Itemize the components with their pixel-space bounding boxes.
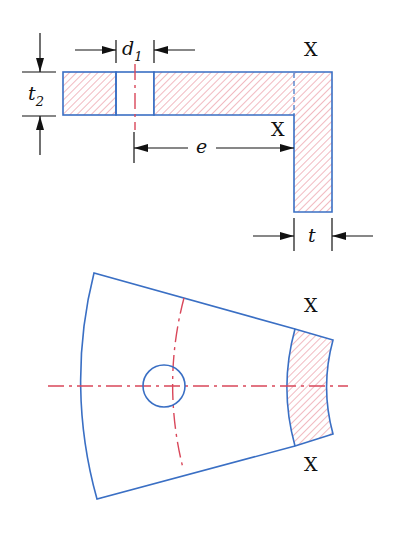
section-label-x-top: X (304, 38, 318, 60)
d1-label: d1 (122, 37, 142, 64)
e-label: e (196, 135, 207, 157)
section-xx-hatched (287, 329, 333, 446)
sector-label-x-bottom: X (304, 453, 318, 475)
dimension-e: e (134, 132, 294, 163)
angle-section (154, 72, 332, 212)
dimension-t: t (253, 218, 373, 251)
section-label-x-inner: X (271, 118, 285, 140)
dimension-t2: t2 (22, 33, 56, 155)
sector-plan-view: X X (48, 273, 348, 499)
plate-section-left (63, 72, 116, 115)
dimension-d1: d1 (75, 37, 195, 64)
cross-section-view: t2 d1 e t (22, 33, 373, 251)
bracket-diagram: t2 d1 e t (0, 0, 399, 534)
bolt-circle-arc (173, 298, 184, 468)
t-label: t (308, 224, 316, 246)
t2-label: t2 (28, 82, 44, 109)
sector-label-x-top: X (304, 294, 318, 316)
